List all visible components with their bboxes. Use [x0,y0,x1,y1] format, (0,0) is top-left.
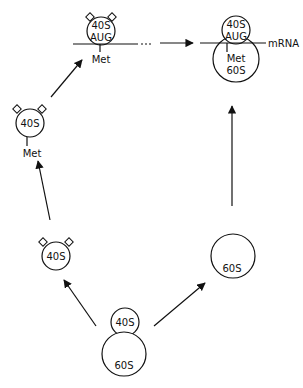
free-60s-node: 60S [211,234,255,278]
free-40s-node: 40S [39,238,73,270]
codon-label: AUG [90,32,112,43]
factor-tag-icon [65,238,73,246]
dissociating-ribosome-node: 40S 60S [102,308,146,376]
subunit-label: 40S [226,19,245,30]
met-label: Met [23,148,42,159]
ribosome-cycle-diagram: 40S AUG Met 40S AUG Met 60S mRNA 40S Met… [0,0,303,388]
met-40s-node: 40S Met [13,105,46,159]
met-label: Met [92,54,111,65]
mrna-label: mRNA [268,38,299,49]
arrow-to-free-40s [64,280,96,326]
subunit-label: 40S [46,251,65,262]
arrow-to-scanning-40s [51,60,82,97]
subunit-label: 60S [222,263,241,274]
subunit-label: 40S [115,317,134,328]
subunit-label: 40S [20,118,39,129]
scanning-40s-node: 40S AUG Met [73,13,151,65]
codon-label: AUG [225,31,247,42]
subunit-label: 60S [226,65,245,76]
met-label: Met [227,53,246,64]
arrow-to-met-40s [38,161,50,220]
subunit-label: 40S [91,20,110,31]
80s-complex-node: 40S AUG Met 60S mRNA [200,16,299,82]
subunit-label: 60S [114,360,133,371]
factor-tag-icon [13,105,21,113]
arrow-to-free-60s [154,283,205,326]
factor-tag-icon [39,238,47,246]
